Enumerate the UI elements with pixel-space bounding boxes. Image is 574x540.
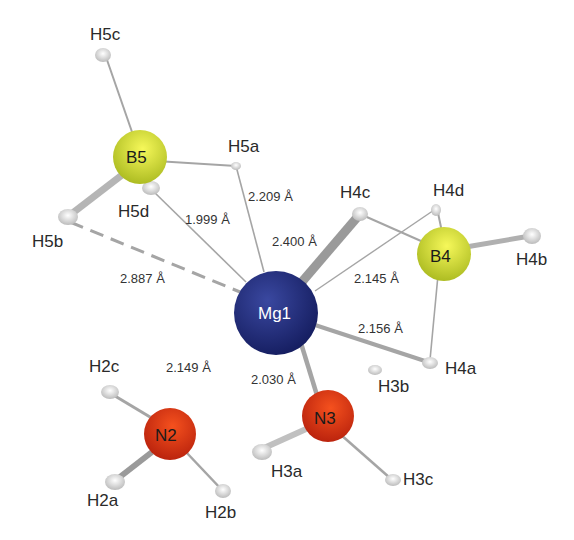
atom-h2a bbox=[105, 474, 125, 490]
atom-h4a bbox=[422, 357, 438, 369]
label-h4d: H4d bbox=[433, 181, 464, 200]
bond-b4-h4b bbox=[460, 236, 530, 248]
label-h2c: H2c bbox=[89, 357, 120, 376]
atom-h5a bbox=[231, 162, 241, 170]
bond-n3-h3c bbox=[340, 434, 390, 478]
label-h4a: H4a bbox=[445, 359, 477, 378]
label-b5: B5 bbox=[126, 148, 147, 167]
atom-h2b bbox=[215, 484, 231, 498]
label-n2: N2 bbox=[155, 426, 177, 445]
bond-n2-h2a bbox=[116, 452, 152, 480]
label-b4: B4 bbox=[430, 247, 451, 266]
label-h2b: H2b bbox=[205, 503, 236, 522]
atom-h3c bbox=[385, 474, 401, 486]
atom-h3b bbox=[368, 365, 382, 375]
atom-h5b bbox=[58, 209, 78, 225]
distance-mg-h5d: 1.999 Å bbox=[185, 212, 230, 227]
label-h3a: H3a bbox=[271, 462, 303, 481]
distance-mg-h5a: 2.209 Å bbox=[248, 189, 293, 204]
atom-h3a bbox=[252, 444, 272, 460]
bond-b4-h4c bbox=[360, 214, 430, 245]
label-h5b: H5b bbox=[32, 232, 63, 251]
molecular-diagram: B5 B4 Mg1 N3 N2 H5c H5a H5d H5b H4c H4d … bbox=[0, 0, 574, 540]
label-mg1: Mg1 bbox=[258, 304, 291, 323]
atom-h4c bbox=[352, 207, 368, 221]
atom-h4b bbox=[523, 228, 541, 244]
label-h5a: H5a bbox=[228, 137, 260, 156]
label-h4c: H4c bbox=[340, 183, 371, 202]
atom-h2c bbox=[101, 385, 119, 399]
distance-mg-n2: 2.149 Å bbox=[166, 360, 211, 375]
label-h4b: H4b bbox=[516, 250, 547, 269]
distance-mg-h4a: 2.156 Å bbox=[358, 321, 403, 336]
distance-mg-h4c: 2.400 Å bbox=[272, 234, 317, 249]
distance-mg-n3: 2.030 Å bbox=[251, 372, 296, 387]
distance-mg-h5b: 2.887 Å bbox=[120, 271, 165, 286]
coord-mg-h5a bbox=[236, 166, 264, 272]
atom-h4d bbox=[431, 204, 441, 216]
coord-mg-h5d bbox=[152, 190, 246, 282]
atom-h5c bbox=[95, 48, 111, 62]
bond-b4-h4a bbox=[430, 275, 438, 360]
bond-n2-h2c bbox=[110, 393, 155, 420]
label-h3c: H3c bbox=[403, 470, 434, 489]
label-h5c: H5c bbox=[90, 25, 121, 44]
coord-mg-h4c bbox=[295, 214, 360, 290]
label-h3b: H3b bbox=[378, 377, 409, 396]
distance-mg-h4d: 2.145 Å bbox=[354, 271, 399, 286]
label-h2a: H2a bbox=[87, 491, 119, 510]
bond-n2-h2b bbox=[186, 452, 222, 490]
label-h5d: H5d bbox=[118, 202, 149, 221]
label-n3: N3 bbox=[314, 409, 336, 428]
